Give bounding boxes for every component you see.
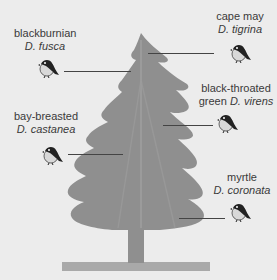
bird-icon: [228, 201, 252, 223]
pointer-line-myrtle: [179, 218, 225, 219]
scientific-name: D. coronata: [210, 184, 274, 197]
bird-icon: [40, 144, 64, 166]
scientific-name: D. fusca: [14, 40, 76, 53]
pointer-line-blackburnian: [64, 71, 131, 72]
pointer-line-cape-may: [148, 53, 214, 54]
pointer-line-bay-breasted: [68, 154, 123, 155]
pointer-line-black-throated-green: [163, 125, 213, 126]
scientific-name: D. tigrina: [210, 23, 270, 36]
bird-icon: [36, 57, 60, 79]
scientific-name: D. castanea: [10, 123, 82, 136]
diagram-canvas: blackburnian D. fusca cape may D. tigrin…: [0, 0, 277, 280]
common-name: blackburnian: [14, 27, 76, 40]
common-name-2: green: [199, 95, 227, 107]
species-label-bay-breasted: bay-breasted D. castanea: [10, 110, 82, 136]
common-name: cape may: [210, 10, 270, 23]
scientific-name: D. virens: [230, 95, 273, 107]
species-label-cape-may: cape may D. tigrina: [210, 10, 270, 36]
common-name: myrtle: [210, 171, 274, 184]
species-label-blackburnian: blackburnian D. fusca: [14, 27, 76, 53]
common-name: bay-breasted: [10, 110, 82, 123]
bird-icon: [215, 112, 239, 134]
species-label-black-throated-green: black-throated green D. virens: [196, 82, 276, 108]
species-label-myrtle: myrtle D. coronata: [210, 171, 274, 197]
common-name: black-throated: [196, 82, 276, 95]
bird-icon: [228, 42, 252, 64]
